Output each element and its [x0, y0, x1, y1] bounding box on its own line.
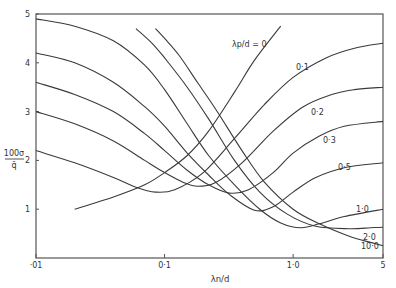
chart: ·010·11·0512345 0·10·20·30·51·02·010·0λp… — [0, 0, 396, 288]
curve-2-0 — [136, 29, 383, 229]
labels-group: 0·10·20·30·51·02·010·0λp/d = 0 — [232, 40, 379, 251]
curve-label: 0·1 — [296, 63, 309, 72]
y-axis-label-numerator: 100σ — [4, 149, 24, 158]
curve-label: 0·3 — [323, 136, 336, 145]
curves-group — [36, 19, 383, 246]
y-tick-label: 4 — [25, 59, 30, 68]
x-tick-label: 5 — [380, 261, 385, 270]
x-tick-label: ·01 — [30, 261, 43, 270]
curve-10-0 — [156, 29, 384, 246]
curve-0-1 — [36, 43, 383, 192]
y-tick-label: 5 — [25, 10, 30, 19]
curve-label: 10·0 — [361, 242, 379, 251]
curve-1-0 — [36, 19, 383, 228]
curve-label: 0·2 — [311, 108, 324, 117]
y-tick-label: 2 — [25, 156, 30, 165]
parameter-annotation: λp/d = 0 — [232, 40, 266, 49]
curve-0-5 — [36, 53, 383, 211]
curve-label: 0·5 — [338, 163, 351, 172]
curve-label: 2·0 — [363, 233, 376, 242]
curve-label: 1·0 — [356, 205, 369, 214]
x-tick-label: 1·0 — [287, 261, 300, 270]
y-axis-label-denominator: q̄ — [11, 161, 16, 170]
x-axis-label: λn/d — [211, 274, 230, 284]
y-tick-label: 1 — [25, 205, 30, 214]
y-tick-label: 3 — [25, 108, 30, 117]
x-tick-label: 0·1 — [158, 261, 171, 270]
